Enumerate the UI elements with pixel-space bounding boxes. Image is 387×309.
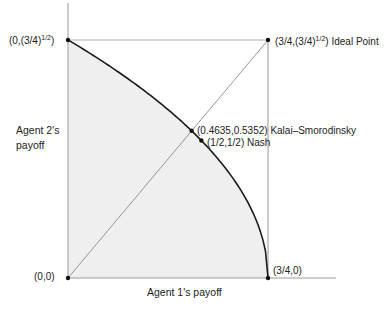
label-nash: (1/2,1/2) Nash (207, 137, 270, 149)
y-axis-label-line1: Agent 2's (16, 123, 59, 138)
label-origin: (0,0) (34, 271, 55, 283)
label-ideal-point: (3/4,(3/4)1/2) Ideal Point (275, 36, 379, 48)
y-axis-label: Agent 2's payoff (16, 123, 59, 153)
label-kalai-smorodinsky: (0.4635,0.5352) Kalai–Smorodinsky (197, 125, 356, 137)
label-top-left: (0,(3/4)1/2) (9, 35, 54, 47)
point-bottom-right (266, 276, 270, 280)
point-ideal (266, 38, 270, 42)
x-axis-label: Agent 1's payoff (147, 285, 222, 300)
point-top-left (66, 38, 70, 42)
point-origin (66, 276, 70, 280)
point-kalai-smorodinsky (189, 129, 193, 133)
point-nash (199, 138, 203, 142)
y-axis-label-line2: payoff (16, 138, 59, 153)
label-bottom-right: (3/4,0) (273, 265, 302, 277)
